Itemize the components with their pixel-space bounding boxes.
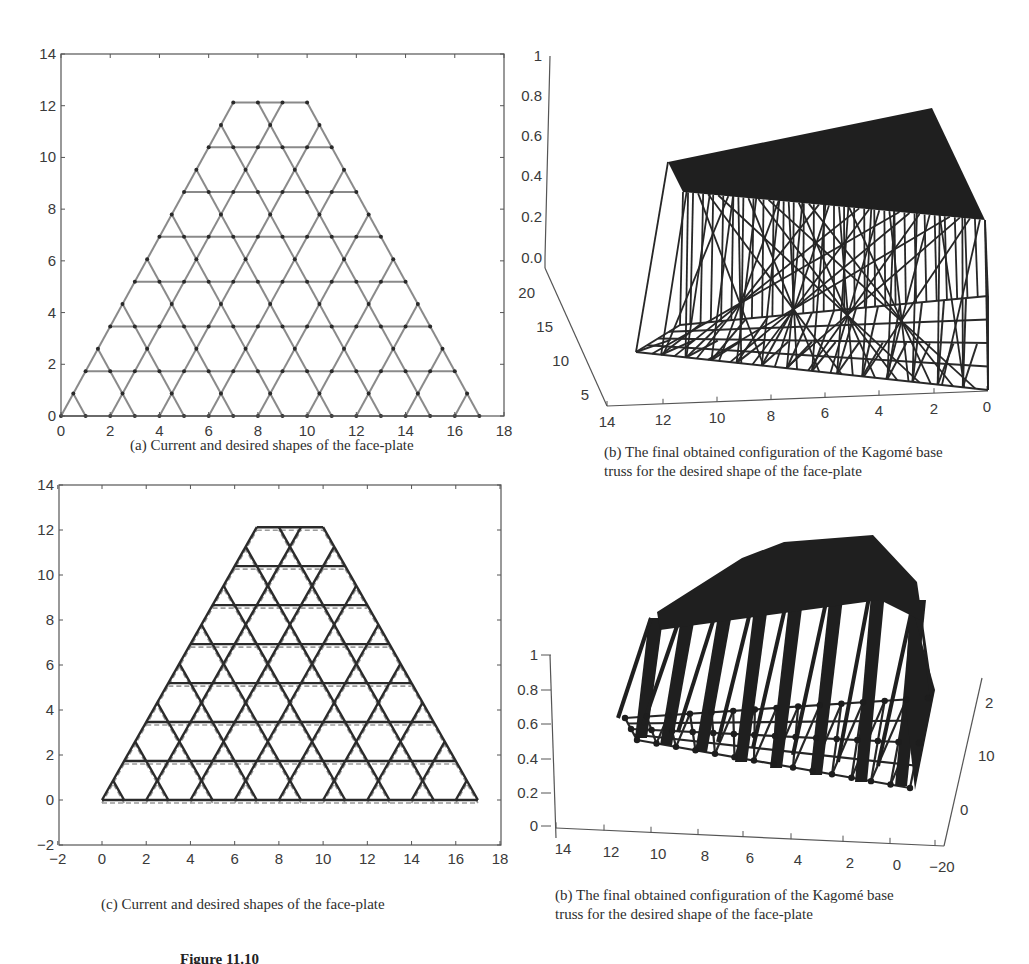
svg-text:0: 0 [893,856,901,873]
svg-text:1: 1 [530,646,538,663]
caption-b-bottom-line2: truss for the desired shape of the face-… [555,905,894,924]
svg-text:−20: −20 [929,858,954,875]
svg-text:2: 2 [985,694,993,711]
svg-text:2: 2 [846,854,854,871]
svg-text:0.2: 0.2 [517,784,538,801]
caption-b-bottom-line1: (b) The final obtained configuration of … [555,886,894,905]
svg-text:10: 10 [650,845,667,862]
svg-text:0.4: 0.4 [517,750,538,767]
y-axis-depth [944,678,982,846]
svg-text:0: 0 [530,817,538,834]
svg-text:6: 6 [746,849,754,866]
svg-text:8: 8 [701,847,709,864]
svg-text:12: 12 [603,843,620,860]
caption-b-bottom: (b) The final obtained configuration of … [555,886,894,924]
svg-text:0.8: 0.8 [517,681,538,698]
z-axis [550,655,556,838]
figure-footer: Figure 11.10 [180,951,259,964]
svg-text:0: 0 [960,801,968,818]
plot-b-bottom-3d-truss: 00.20.40.60.8114121086420−200102 [0,0,1029,964]
svg-text:14: 14 [555,840,572,857]
svg-text:10: 10 [978,747,995,764]
svg-text:4: 4 [794,851,802,868]
svg-text:0.6: 0.6 [517,715,538,732]
